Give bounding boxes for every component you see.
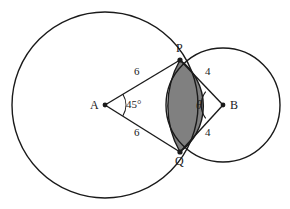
point-label-p: P xyxy=(176,42,183,54)
point-label-q: Q xyxy=(175,155,184,167)
length-label-bp: 4 xyxy=(205,66,211,77)
length-label-ap: 6 xyxy=(134,66,140,77)
angle-label-a: 45° xyxy=(126,99,141,110)
point-b-dot xyxy=(221,103,226,108)
point-label-b: B xyxy=(230,99,238,111)
length-label-aq: 6 xyxy=(134,127,140,138)
point-a-dot xyxy=(103,103,108,108)
point-p-dot xyxy=(177,57,182,62)
angle-label-theta: θ xyxy=(196,99,202,111)
geometry-figure: A B P Q 6 6 4 4 45° θ xyxy=(0,0,290,209)
figure-canvas xyxy=(0,0,290,209)
point-label-a: A xyxy=(90,99,99,111)
length-label-bq: 4 xyxy=(205,127,211,138)
